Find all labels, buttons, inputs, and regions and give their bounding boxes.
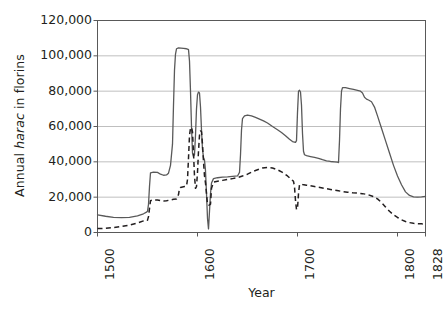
x-tick-label: 1800: [404, 248, 417, 280]
x-tick-label: 1828: [432, 248, 445, 280]
x-axis-title: Year: [97, 285, 426, 300]
axis-ticks: [94, 21, 426, 237]
x-tick-label: 1700: [304, 248, 317, 280]
x-tick-label: 1500: [104, 248, 117, 280]
series-line-nominal-harac: [98, 48, 426, 229]
gridlines: [98, 56, 426, 197]
series-line-real-harac: [98, 127, 426, 228]
x-tick-label: 1600: [204, 248, 217, 280]
